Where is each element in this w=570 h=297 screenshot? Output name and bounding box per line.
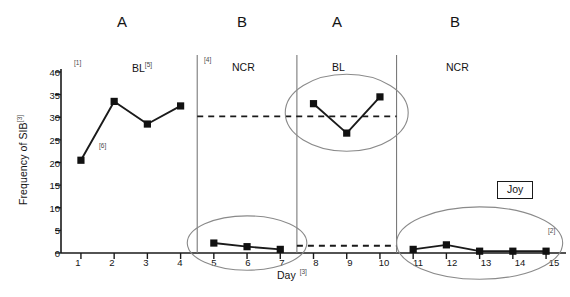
data-point-day-1 [77,157,84,164]
data-point-day-9 [343,129,350,136]
data-point-day-13 [476,248,483,255]
data-point-day-12 [443,241,450,248]
highlight-ellipse-1 [187,216,307,270]
data-point-day-6 [243,243,250,250]
data-point-day-10 [376,93,383,100]
y-axis-ticks [55,72,61,253]
data-series-group [77,93,549,255]
highlight-ellipse-2 [285,74,408,151]
data-point-day-4 [177,102,184,109]
series-line-1 [81,101,181,160]
data-point-day-8 [310,100,317,107]
data-point-day-3 [144,120,151,127]
highlight-ellipse-3 [397,207,563,279]
phase-divider-lines [197,55,396,253]
plot-area [0,0,570,297]
data-point-day-11 [410,246,417,253]
data-point-day-14 [509,248,516,255]
data-point-day-5 [210,239,217,246]
data-point-day-15 [542,248,549,255]
data-point-day-2 [111,98,118,105]
series-line-3 [314,97,380,133]
sib-frequency-chart: A B A B BL[5] NCR BL NCR [1] [6] [4] [2]… [0,0,570,297]
data-point-day-7 [277,246,284,253]
